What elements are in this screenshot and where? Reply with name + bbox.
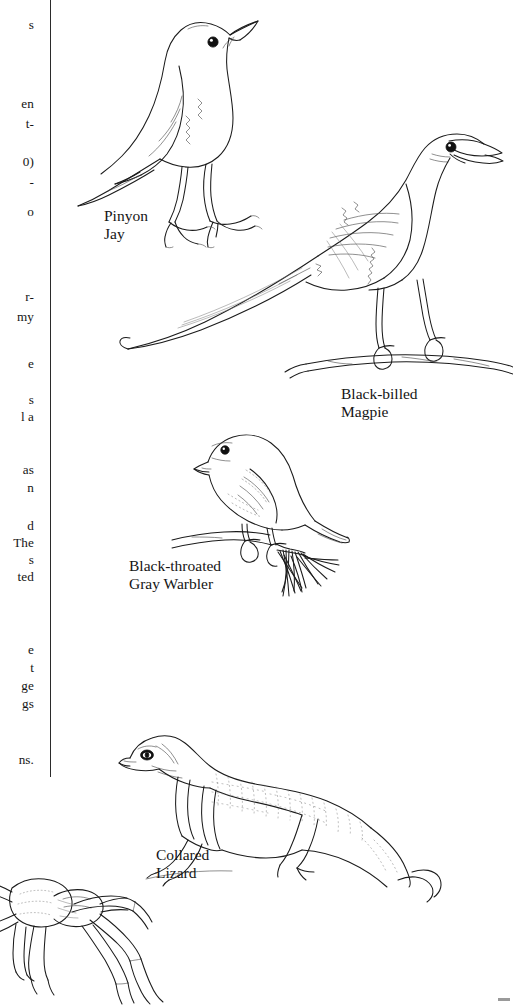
text-fragment: s xyxy=(29,553,34,566)
caption-black-billed-magpie: Black-billed Magpie xyxy=(341,385,418,421)
column-divider-rule xyxy=(50,0,51,777)
text-fragment: l a xyxy=(21,410,34,423)
text-fragment: en xyxy=(21,97,34,110)
text-fragment: as xyxy=(23,463,34,476)
text-fragment: o xyxy=(27,205,34,218)
body-text-column: s en t- 0) - o r- my e s l a as n d The … xyxy=(0,0,38,790)
text-fragment: The xyxy=(13,536,34,549)
text-fragment: s xyxy=(29,393,34,406)
scanned-page: s en t- 0) - o r- my e s l a as n d The … xyxy=(0,0,513,1006)
text-fragment: e xyxy=(28,357,34,370)
text-fragment: - xyxy=(30,175,35,188)
illustration-tarantula xyxy=(0,852,175,1006)
text-fragment: r- xyxy=(25,290,34,303)
text-fragment: my xyxy=(17,310,34,323)
text-fragment: 0) xyxy=(23,155,34,168)
text-fragment: gs xyxy=(22,697,34,710)
text-fragment: t- xyxy=(26,117,34,130)
page-corner-mark xyxy=(498,998,510,1001)
text-fragment: ted xyxy=(18,570,34,583)
text-fragment: ge xyxy=(21,679,34,692)
text-fragment: e xyxy=(28,643,34,656)
text-fragment: ns. xyxy=(19,753,34,766)
text-fragment: d xyxy=(27,519,34,532)
text-fragment: n xyxy=(27,481,34,494)
text-fragment: t xyxy=(30,661,34,674)
illustration-black-billed-magpie xyxy=(92,128,513,378)
text-fragment: s xyxy=(29,18,34,31)
caption-black-throated-gray-warbler: Black-throated Gray Warbler xyxy=(129,557,221,593)
